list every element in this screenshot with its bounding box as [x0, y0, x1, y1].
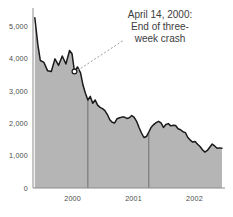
series-area-fill [35, 18, 222, 188]
y-tick-label: 5,000 [9, 22, 28, 31]
annotation-text-block: April 14, 2000:End of three-week crash [128, 9, 193, 44]
y-tick-label: 2,000 [9, 119, 28, 128]
y-tick-label: 3,000 [9, 87, 28, 96]
x-tick-label: 2000 [64, 194, 81, 203]
x-tick-label: 2002 [186, 194, 203, 203]
chart-container: 01,0002,0003,0004,0005,000 200020012002 … [0, 0, 233, 217]
y-axis-tick-labels: 01,0002,0003,0004,0005,000 [9, 22, 28, 193]
annotation-marker-dot [72, 69, 77, 74]
x-tick-label: 2001 [125, 194, 142, 203]
annotation-leader-line [77, 40, 124, 70]
annotation-line: April 14, 2000: [128, 9, 193, 20]
y-tick-label: 1,000 [9, 151, 28, 160]
y-tick-label: 0 [24, 184, 28, 193]
x-axis-tick-labels: 200020012002 [64, 194, 203, 203]
annotation-line: week crash [134, 33, 186, 44]
area-chart: 01,0002,0003,0004,0005,000 200020012002 … [0, 0, 233, 217]
y-tick-label: 4,000 [9, 54, 28, 63]
annotation-line: End of three- [131, 21, 189, 32]
